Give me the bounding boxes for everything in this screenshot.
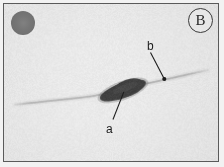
circular-marker-icon <box>11 11 35 35</box>
micrograph-frame: B a b <box>3 3 219 162</box>
micrograph-image <box>4 4 218 161</box>
annotation-label-a: a <box>106 123 113 135</box>
panel-label: B <box>188 8 213 33</box>
figure-panel: B a b <box>0 0 224 167</box>
annotation-label-b: b <box>147 40 154 52</box>
